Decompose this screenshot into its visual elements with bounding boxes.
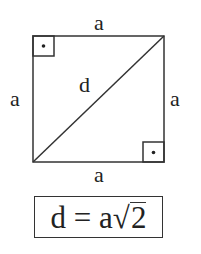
radical-icon: √ [113,200,130,235]
diagonal-formula: d = a√2 [35,200,162,236]
formula-equals: = [74,200,91,235]
formula-radicand: 2 [130,202,147,233]
diagonal-line [33,36,164,162]
right-angle-marker-top-left [33,36,54,56]
formula-lhs: d [51,200,67,235]
label-left-side: a [10,88,20,110]
label-top-side: a [94,12,104,34]
formula-box: d = a√2 [34,196,163,238]
label-bottom-side: a [94,164,104,186]
label-right-side: a [170,88,180,110]
formula-coef: a [99,200,113,235]
square-root: √2 [113,200,147,236]
right-angle-marker-bottom-right [143,142,164,162]
label-diagonal: d [79,74,90,96]
